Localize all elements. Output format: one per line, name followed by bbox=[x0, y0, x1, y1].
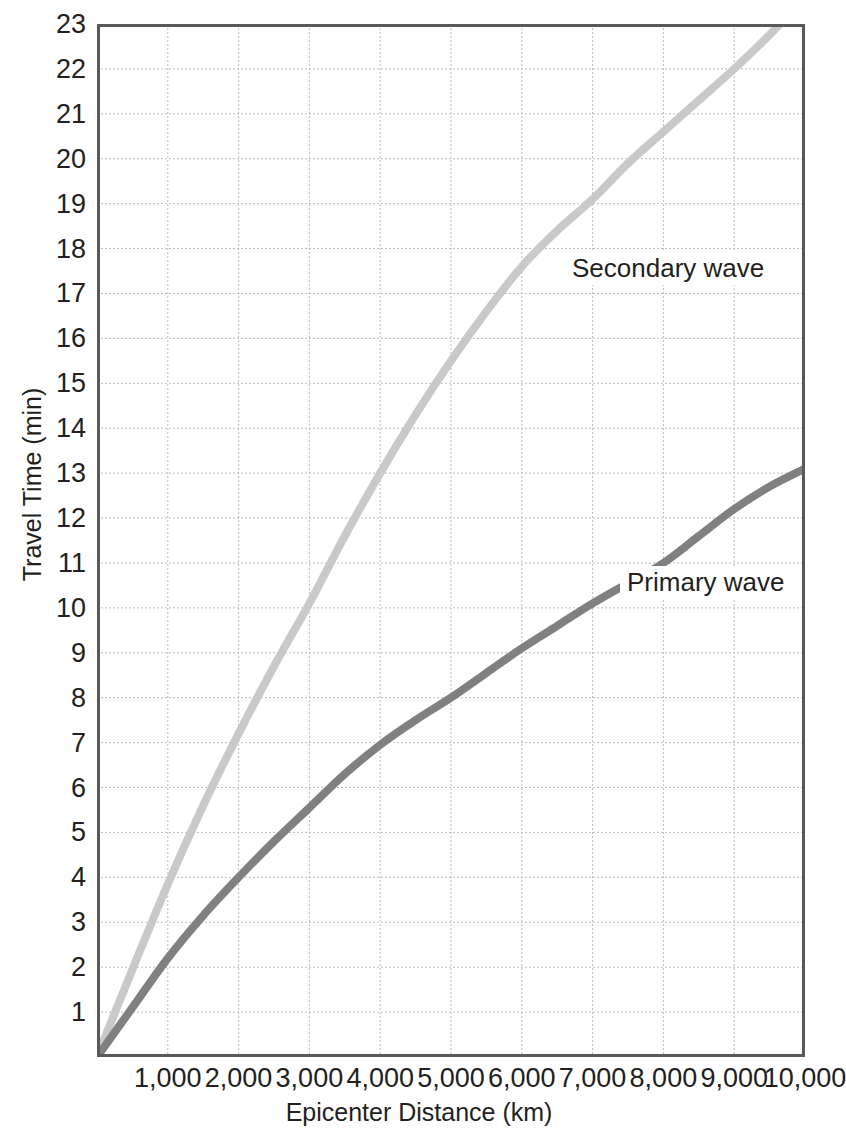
x-axis-tick-label: 5,000 bbox=[417, 1065, 485, 1092]
series-label-primary-wave: Primary wave bbox=[620, 566, 791, 599]
y-axis-tick-label: 21 bbox=[30, 100, 86, 127]
y-axis-tick-label: 22 bbox=[30, 55, 86, 82]
y-axis-tick-label: 5 bbox=[30, 819, 86, 846]
y-axis-tick-label: 8 bbox=[30, 684, 86, 711]
y-axis-tick-label: 17 bbox=[30, 280, 86, 307]
x-axis-tick-label: 3,000 bbox=[276, 1065, 344, 1092]
y-axis-tick-label: 19 bbox=[30, 190, 86, 217]
series-label-secondary-wave: Secondary wave bbox=[565, 252, 771, 285]
y-axis-tick-label: 18 bbox=[30, 235, 86, 262]
x-axis-tick-label: 7,000 bbox=[559, 1065, 627, 1092]
x-axis-tick-label: 1,000 bbox=[134, 1065, 202, 1092]
y-axis-tick-label: 3 bbox=[30, 909, 86, 936]
series-line-secondary-wave bbox=[97, 24, 780, 1057]
y-axis-tick-label: 1 bbox=[30, 999, 86, 1026]
x-axis-tick-label: 8,000 bbox=[630, 1065, 698, 1092]
y-axis-tick-label: 2 bbox=[30, 954, 86, 981]
plot-svg bbox=[97, 24, 805, 1057]
x-axis-tick-label: 10,000 bbox=[764, 1065, 846, 1092]
x-axis-tick-label: 6,000 bbox=[488, 1065, 556, 1092]
y-axis-title: Travel Time (min) bbox=[18, 305, 47, 665]
x-axis-title: Epicenter Distance (km) bbox=[0, 1098, 838, 1127]
y-axis-tick-label: 23 bbox=[30, 11, 86, 38]
y-axis-tick-label: 20 bbox=[30, 145, 86, 172]
x-axis-tick-label: 9,000 bbox=[700, 1065, 768, 1092]
plot-area bbox=[97, 24, 805, 1057]
x-axis-tick-label: 2,000 bbox=[205, 1065, 273, 1092]
x-axis-tick-label: 4,000 bbox=[346, 1065, 414, 1092]
y-axis-tick-label: 4 bbox=[30, 864, 86, 891]
y-axis-tick-label: 6 bbox=[30, 774, 86, 801]
y-axis-tick-label: 7 bbox=[30, 729, 86, 756]
